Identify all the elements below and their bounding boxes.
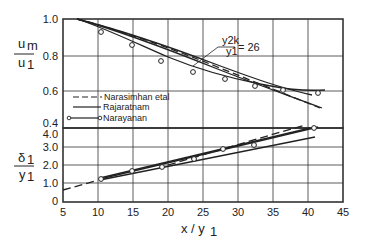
svg-text:Narayanan: Narayanan <box>103 113 147 123</box>
x-ticks: 5 10 15 20 25 30 35 40 45 <box>60 206 349 218</box>
bottom-y-axis-label: δ 1 y 1 <box>14 150 34 184</box>
svg-text:0.8: 0.8 <box>43 50 58 62</box>
svg-text:30: 30 <box>232 206 244 218</box>
svg-text:u: u <box>18 36 25 51</box>
svg-text:m: m <box>27 38 38 53</box>
svg-text:10: 10 <box>92 206 104 218</box>
annotation-value: = 26 <box>238 41 260 53</box>
svg-text:15: 15 <box>127 206 139 218</box>
svg-text:x / y: x / y <box>181 221 205 236</box>
svg-text:0.6: 0.6 <box>43 85 58 97</box>
x-axis-label: x / y 1 <box>181 221 217 239</box>
svg-text:4.0: 4.0 <box>43 128 58 140</box>
svg-text:Rajaratnam: Rajaratnam <box>103 102 150 112</box>
legend-item-narasimhan: Narasimhan etal <box>73 92 170 102</box>
bottom-y-ticks: 4.0 3.0 2.0 1.0 0 <box>43 128 58 207</box>
svg-text:Narasimhan etal: Narasimhan etal <box>104 92 170 102</box>
svg-text:25: 25 <box>197 206 209 218</box>
bottom-panel <box>63 128 343 202</box>
svg-text:45: 45 <box>337 206 349 218</box>
svg-text:5: 5 <box>60 206 66 218</box>
svg-text:u: u <box>18 55 25 70</box>
annotation-denominator: y1 <box>226 45 238 57</box>
svg-text:1.0: 1.0 <box>43 177 58 189</box>
top-y-axis-label: u m u 1 <box>14 36 38 72</box>
legend-item-rajaratnam: Rajaratnam <box>73 102 150 112</box>
svg-text:35: 35 <box>267 206 279 218</box>
top-y-ticks: 1.0 0.8 0.6 0.4 <box>43 13 58 129</box>
svg-text:0: 0 <box>52 195 58 207</box>
legend: Narasimhan etal Rajaratnam Narayanan <box>67 92 169 123</box>
svg-text:1.0: 1.0 <box>43 13 58 25</box>
figure: y2k y1 = 26 Narasimhan etal Rajaratnam N… <box>0 0 366 248</box>
svg-text:2.0: 2.0 <box>43 159 58 171</box>
svg-text:δ: δ <box>18 150 25 165</box>
legend-item-narayanan: Narayanan <box>67 113 147 123</box>
series-narasimhan-bottom <box>63 181 95 190</box>
svg-text:40: 40 <box>302 206 314 218</box>
svg-text:3.0: 3.0 <box>43 141 58 153</box>
svg-text:20: 20 <box>162 206 174 218</box>
svg-text:1: 1 <box>27 169 34 184</box>
svg-text:1: 1 <box>210 224 217 239</box>
svg-text:1: 1 <box>27 152 34 167</box>
svg-text:1: 1 <box>27 57 34 72</box>
svg-text:y: y <box>19 167 26 182</box>
